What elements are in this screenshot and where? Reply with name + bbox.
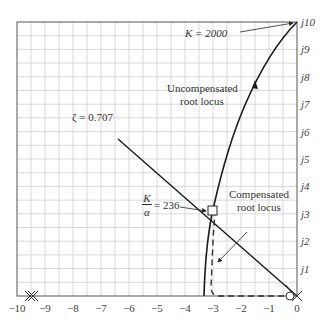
k-2000-label: K = 2000: [185, 27, 227, 39]
y-tick-label: j5: [301, 153, 310, 165]
y-tick-label: j2: [301, 235, 310, 247]
compensated-label-2: root locus: [237, 201, 281, 213]
x-tick-label: −4: [173, 302, 197, 314]
x-tick-label: 0: [285, 302, 309, 314]
x-tick-label: −1: [257, 302, 281, 314]
root-locus-plot: [0, 0, 323, 326]
x-tick-label: −6: [117, 302, 141, 314]
grid: [17, 22, 297, 296]
compensated-locus: [211, 212, 294, 296]
y-tick-label: j3: [301, 208, 310, 220]
k-alpha-value: = 236: [154, 199, 179, 211]
zeta-label: ζ = 0.707: [72, 111, 113, 123]
x-tick-label: −3: [201, 302, 225, 314]
x-tick-label: −2: [229, 302, 253, 314]
x-tick-label: −10: [5, 302, 29, 314]
y-tick-label: j10: [301, 16, 315, 28]
uncompensated-label-2: root locus: [180, 95, 224, 107]
y-tick-label: j8: [301, 71, 310, 83]
x-tick-label: −7: [89, 302, 113, 314]
k-alpha-den: α: [142, 206, 152, 218]
zero-o-icon: [286, 292, 294, 300]
design-point-marker: [208, 206, 217, 215]
direction-arrow-icon: [252, 80, 258, 89]
uncompensated-label-1: Uncompensated: [167, 82, 238, 94]
y-tick-label: j4: [301, 180, 310, 192]
x-tick-label: −9: [33, 302, 57, 314]
y-tick-label: j6: [301, 126, 310, 138]
y-tick-label: j1: [301, 263, 310, 275]
x-tick-label: −8: [61, 302, 85, 314]
k-alpha-num: K: [142, 192, 152, 205]
y-tick-label: j9: [301, 43, 310, 55]
y-tick-label: j7: [301, 98, 310, 110]
x-tick-label: −5: [145, 302, 169, 314]
compensated-label-1: Compensated: [229, 188, 289, 200]
